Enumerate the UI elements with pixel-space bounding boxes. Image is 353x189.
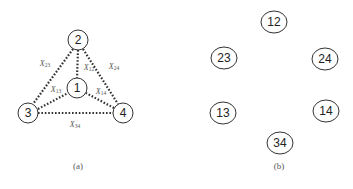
- panel-a: X23 X12 X24 X13 X14 X34 1 2 3 4 (a): [18, 30, 133, 171]
- node-2: 2: [68, 30, 88, 50]
- edge-label-x34: X34: [69, 120, 81, 130]
- node-34: 34: [267, 132, 293, 154]
- node-13: 13: [210, 102, 236, 124]
- caption-a: (a): [73, 161, 83, 171]
- edge-label-x14: X14: [95, 87, 107, 97]
- diagram-canvas: X23 X12 X24 X13 X14 X34 1 2 3 4 (a) 12: [0, 0, 353, 189]
- panel-b: 12 23 24 13 14 34 (b): [210, 11, 339, 171]
- caption-b: (b): [274, 161, 285, 171]
- edge-3-1: [38, 93, 68, 109]
- edge-label-x24: X24: [108, 62, 120, 72]
- svg-text:24: 24: [318, 52, 332, 66]
- node-23: 23: [211, 47, 237, 69]
- svg-text:3: 3: [25, 106, 32, 120]
- svg-text:1: 1: [74, 81, 81, 95]
- node-14: 14: [313, 100, 339, 122]
- svg-text:13: 13: [216, 106, 230, 120]
- edge-2-1: [77, 50, 78, 78]
- node-4: 4: [113, 103, 133, 123]
- svg-text:2: 2: [75, 33, 82, 47]
- svg-text:4: 4: [120, 106, 127, 120]
- svg-text:34: 34: [273, 136, 287, 150]
- node-1: 1: [67, 78, 87, 98]
- edge-2-3: [33, 49, 73, 104]
- svg-text:12: 12: [267, 15, 281, 29]
- node-3: 3: [18, 103, 38, 123]
- node-24: 24: [312, 48, 338, 70]
- svg-text:23: 23: [217, 51, 231, 65]
- edge-label-x23: X23: [39, 59, 51, 69]
- edge-label-x13: X13: [50, 85, 62, 95]
- node-12: 12: [261, 11, 287, 33]
- svg-text:14: 14: [319, 104, 333, 118]
